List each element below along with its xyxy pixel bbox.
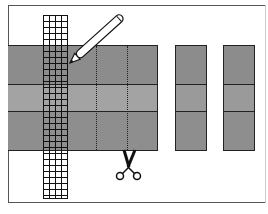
scissors-icon <box>0 0 268 214</box>
